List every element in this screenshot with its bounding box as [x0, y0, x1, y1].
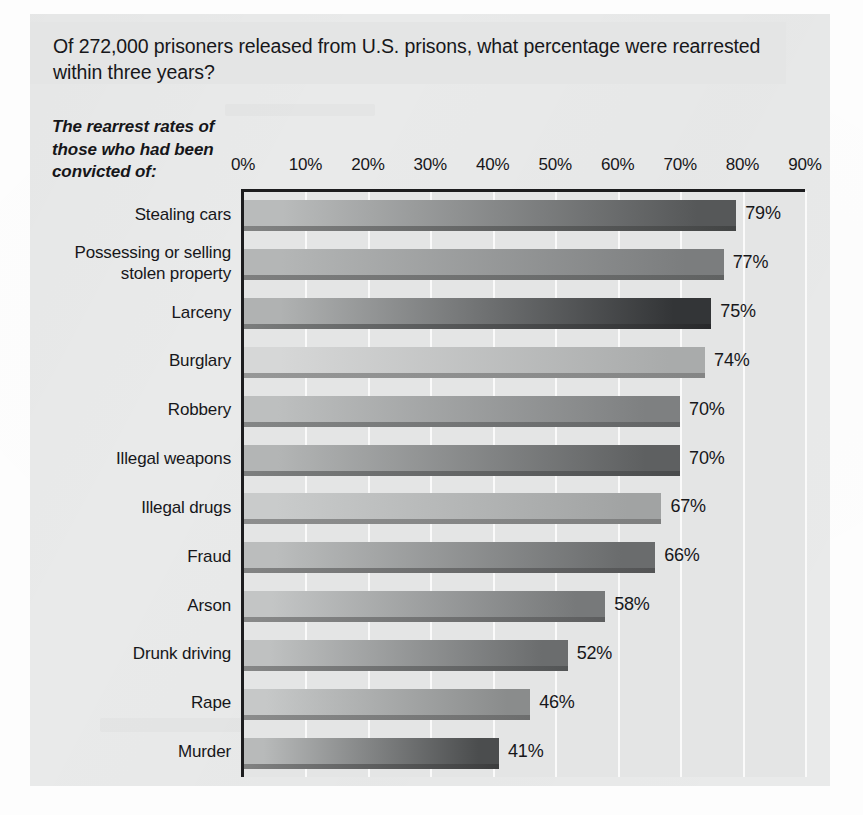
bar — [243, 200, 736, 226]
x-tick-label: 90% — [788, 155, 821, 175]
x-axis-line — [243, 189, 805, 192]
bar — [243, 689, 530, 715]
category-label: Fraud — [187, 546, 231, 567]
bar-row: 70% — [243, 445, 805, 476]
bar-shadow — [243, 324, 711, 329]
x-tick-label: 50% — [539, 155, 572, 175]
bar — [243, 396, 680, 422]
bar — [243, 347, 705, 373]
category-label: Burglary — [169, 350, 231, 371]
bar — [243, 445, 680, 471]
bar-value-label: 41% — [508, 741, 543, 762]
x-tick-label: 20% — [351, 155, 384, 175]
category-label: Larceny — [172, 302, 231, 323]
category-label: Robbery — [168, 399, 231, 420]
bar-shadow — [243, 373, 705, 378]
bar-shadow — [243, 471, 680, 476]
category-label: Stealing cars — [135, 204, 231, 225]
category-label: Murder — [178, 741, 231, 762]
category-label: Rape — [191, 692, 231, 713]
bar-row: 75% — [243, 298, 805, 329]
x-tick-label: 10% — [289, 155, 322, 175]
chart-caption: The rearrest rates of those who had been… — [52, 116, 232, 184]
gridline — [805, 191, 807, 777]
bar-shadow — [243, 715, 530, 720]
category-axis-labels: Stealing carsPossessing or selling stole… — [20, 191, 231, 777]
bar — [243, 298, 711, 324]
scanned-page: Of 272,000 prisoners released from U.S. … — [0, 0, 863, 815]
bar-row: 52% — [243, 640, 805, 671]
bar-shadow — [243, 764, 499, 769]
category-label: Drunk driving — [133, 643, 231, 664]
bar-row: 79% — [243, 200, 805, 231]
bar-row: 77% — [243, 249, 805, 280]
bar-row: 74% — [243, 347, 805, 378]
bar-value-label: 46% — [539, 692, 574, 713]
x-tick-label: 60% — [601, 155, 634, 175]
x-tick-label: 0% — [231, 155, 255, 175]
bar-shadow — [243, 226, 736, 231]
category-label: Illegal weapons — [116, 448, 231, 469]
bar-value-label: 67% — [670, 496, 705, 517]
page-title: Of 272,000 prisoners released from U.S. … — [53, 33, 795, 85]
bar-value-label: 70% — [689, 399, 724, 420]
bar — [243, 542, 655, 568]
bar-shadow — [243, 666, 568, 671]
bar — [243, 249, 724, 275]
x-tick-label: 40% — [476, 155, 509, 175]
bar — [243, 591, 605, 617]
y-axis-line — [241, 189, 244, 777]
bar-shadow — [243, 617, 605, 622]
bar-shadow — [243, 519, 661, 524]
chart-plot-area: 79%77%75%74%70%70%67%66%58%52%46%41% — [243, 191, 805, 777]
x-tick-label: 30% — [414, 155, 447, 175]
bar — [243, 738, 499, 764]
category-label: Arson — [187, 595, 231, 616]
category-label: Illegal drugs — [141, 497, 231, 518]
bar-row: 66% — [243, 542, 805, 573]
bar-value-label: 75% — [720, 301, 755, 322]
bar-row: 46% — [243, 689, 805, 720]
bar-value-label: 58% — [614, 594, 649, 615]
bar-row: 67% — [243, 493, 805, 524]
bar-value-label: 70% — [689, 448, 724, 469]
bar — [243, 493, 661, 519]
bar-value-label: 74% — [714, 350, 749, 371]
bar-row: 41% — [243, 738, 805, 769]
bar-row: 58% — [243, 591, 805, 622]
bar — [243, 640, 568, 666]
category-label: Possessing or selling stolen property — [74, 242, 231, 284]
bar-row: 70% — [243, 396, 805, 427]
bar-shadow — [243, 568, 655, 573]
x-tick-label: 70% — [663, 155, 696, 175]
bar-value-label: 52% — [577, 643, 612, 664]
bar-shadow — [243, 422, 680, 427]
bar-value-label: 79% — [745, 203, 780, 224]
bar-shadow — [243, 275, 724, 280]
bar-value-label: 66% — [664, 545, 699, 566]
bar-value-label: 77% — [733, 252, 768, 273]
x-tick-label: 80% — [726, 155, 759, 175]
